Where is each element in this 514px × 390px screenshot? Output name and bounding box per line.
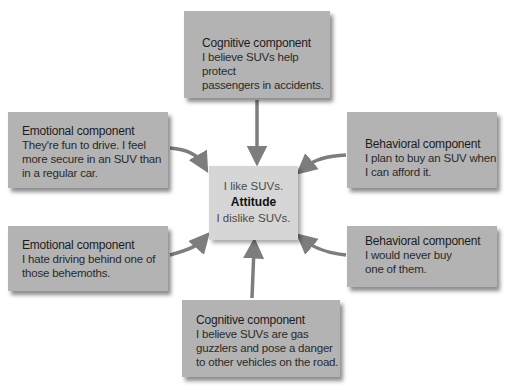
arrow-right-lower (304, 240, 346, 255)
component-title: Behavioral component (365, 137, 497, 151)
arrow-right-upper (304, 155, 346, 168)
component-title: Emotional component (22, 238, 168, 252)
component-line: one of them. (365, 262, 497, 276)
component-line: They're fun to drive. I feel (22, 138, 168, 152)
emotional-component-positive: Emotional component They're fun to drive… (8, 112, 168, 188)
component-line: those behemoths. (22, 266, 168, 280)
component-line: I hate driving behind one of (22, 252, 168, 266)
component-line: more secure in an SUV than (22, 152, 168, 166)
component-title: Emotional component (22, 124, 168, 138)
attitude-negative-text: I dislike SUVs. (209, 210, 298, 226)
behavioral-component-negative: Behavioral component I would never buy o… (347, 226, 497, 287)
component-line: I would never buy (365, 248, 497, 262)
component-line: I can afford it. (365, 165, 497, 179)
component-line: in a regular car. (22, 166, 168, 180)
component-line: passengers in accidents. (202, 78, 330, 92)
behavioral-component-positive: Behavioral component I plan to buy an SU… (347, 112, 497, 188)
arrow-left-lower (170, 240, 203, 255)
component-title: Cognitive component (202, 36, 330, 50)
component-line: I believe SUVs help protect (202, 50, 330, 78)
component-title: Behavioral component (365, 234, 497, 248)
attitude-label: Attitude (209, 194, 298, 210)
attitude-center-box: I like SUVs. Attitude I dislike SUVs. (209, 166, 298, 240)
component-line: I plan to buy an SUV when (365, 151, 497, 165)
cognitive-component-positive: Cognitive component I believe SUVs help … (184, 11, 330, 98)
component-line: to other vehicles on the road. (196, 355, 340, 369)
emotional-component-negative: Emotional component I hate driving behin… (8, 226, 168, 291)
arrow-left-upper (170, 148, 203, 164)
arrow-bottom (252, 248, 254, 298)
attitude-positive-text: I like SUVs. (209, 178, 298, 194)
component-line: I believe SUVs are gas (196, 327, 340, 341)
component-title: Cognitive component (196, 313, 340, 327)
component-line: guzzlers and pose a danger (196, 341, 340, 355)
cognitive-component-negative: Cognitive component I believe SUVs are g… (182, 300, 340, 377)
